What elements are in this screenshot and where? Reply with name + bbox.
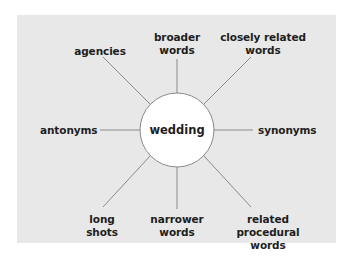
node-antonyms: antonyms	[40, 124, 100, 137]
edge-closely-related	[204, 57, 251, 104]
node-broader-words: broader words	[140, 31, 214, 57]
edge-agencies	[103, 57, 150, 104]
center-label: wedding	[140, 123, 214, 137]
node-closely-related-words: closely related words	[216, 31, 310, 57]
node-agencies: agencies	[62, 45, 138, 58]
node-narrower-words: narrower words	[140, 213, 214, 239]
edge-long-shots	[103, 156, 150, 207]
node-synonyms: synonyms	[258, 124, 328, 137]
node-related-procedural-words: related procedural words	[230, 213, 306, 252]
edge-procedural	[204, 156, 251, 207]
node-long-shots: long shots	[70, 213, 134, 239]
